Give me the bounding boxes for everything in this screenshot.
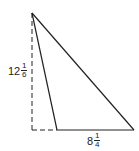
height-denominator: 6 bbox=[22, 71, 26, 79]
base-numerator: 1 bbox=[95, 132, 99, 140]
height-numerator: 1 bbox=[22, 62, 26, 70]
triangle-right-side bbox=[32, 13, 134, 130]
base-fraction: 1 4 bbox=[94, 132, 100, 149]
base-denominator: 4 bbox=[95, 141, 99, 149]
triangle-diagram: 12 1 6 8 1 4 bbox=[0, 0, 139, 151]
height-fraction: 1 6 bbox=[21, 62, 27, 79]
triangle-left-side bbox=[32, 13, 57, 130]
base-whole: 8 bbox=[87, 135, 93, 147]
base-label: 8 1 4 bbox=[87, 132, 100, 149]
height-label: 12 1 6 bbox=[8, 62, 27, 79]
height-whole: 12 bbox=[8, 65, 20, 77]
